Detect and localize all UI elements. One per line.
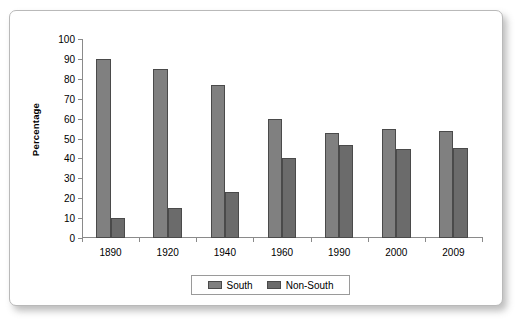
bar-south-1940 (211, 85, 225, 238)
legend-entry-south: South (208, 280, 253, 291)
bar-non-south-1940 (225, 192, 239, 238)
x-axis-tick-label: 1960 (271, 247, 293, 258)
y-axis-tick-label: 70 (64, 93, 75, 104)
y-axis-title: Percentage (30, 65, 41, 195)
y-axis-tick-label: 0 (69, 233, 75, 244)
x-axis-tick (368, 237, 369, 242)
y-axis-tick-label: 20 (64, 193, 75, 204)
screenshot-root: Percentage 01020304050607080901001890192… (0, 0, 527, 327)
y-axis-tick (78, 178, 83, 179)
bar-non-south-1890 (111, 218, 125, 238)
bar-non-south-1920 (168, 208, 182, 238)
y-axis-tick-label: 40 (64, 153, 75, 164)
y-axis-tick (78, 158, 83, 159)
chart-axes: 0102030405060708090100189019201940196019… (82, 39, 482, 238)
legend-swatch-icon (208, 281, 222, 289)
bar-south-2009 (439, 131, 453, 238)
x-axis-tick (139, 237, 140, 242)
x-axis-tick-label: 2009 (442, 247, 464, 258)
y-axis-tick-label: 10 (64, 213, 75, 224)
x-axis-tick (311, 237, 312, 242)
bar-non-south-1960 (282, 158, 296, 238)
bar-south-1890 (96, 59, 110, 238)
y-axis-tick (78, 218, 83, 219)
y-axis-tick (78, 39, 83, 40)
x-axis-tick-label: 2000 (385, 247, 407, 258)
x-axis-tick (425, 237, 426, 242)
chart-legend: SouthNon-South (191, 275, 350, 295)
y-axis-tick (78, 59, 83, 60)
legend-swatch-icon (267, 281, 281, 289)
x-axis-tick (196, 237, 197, 242)
x-axis-tick-label: 1940 (214, 247, 236, 258)
y-axis-tick-label: 100 (58, 34, 75, 45)
y-axis-tick (78, 198, 83, 199)
bar-south-2000 (382, 129, 396, 238)
y-axis-tick (78, 139, 83, 140)
bar-south-1920 (153, 69, 167, 238)
bar-non-south-2000 (396, 149, 410, 238)
y-axis-tick (78, 119, 83, 120)
x-axis-tick-label: 1920 (157, 247, 179, 258)
bar-south-1990 (325, 133, 339, 238)
legend-entry-non-south: Non-South (267, 280, 334, 291)
x-axis-tick (82, 237, 83, 242)
chart-card: Percentage 01020304050607080901001890192… (9, 10, 503, 306)
legend-label: Non-South (286, 280, 334, 291)
bar-non-south-2009 (453, 148, 467, 238)
y-axis-tick-label: 30 (64, 173, 75, 184)
y-axis-tick-label: 80 (64, 73, 75, 84)
x-axis-tick-label: 1990 (328, 247, 350, 258)
bar-south-1960 (268, 119, 282, 238)
y-axis-tick-label: 90 (64, 53, 75, 64)
x-axis-tick-label: 1890 (99, 247, 121, 258)
legend-label: South (227, 280, 253, 291)
chart-plot-wrapper: Percentage 01020304050607080901001890192… (10, 11, 504, 307)
x-axis-tick (482, 237, 483, 242)
y-axis-tick (78, 99, 83, 100)
y-axis-tick-label: 50 (64, 133, 75, 144)
y-axis-tick (78, 79, 83, 80)
bar-non-south-1990 (339, 145, 353, 238)
y-axis-tick-label: 60 (64, 113, 75, 124)
x-axis-tick (253, 237, 254, 242)
